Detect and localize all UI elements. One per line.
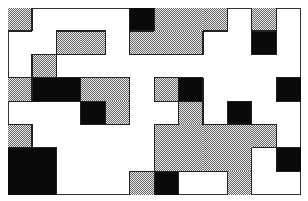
tile-border xyxy=(56,148,57,172)
tile-border xyxy=(130,30,155,31)
tile-border xyxy=(154,171,155,195)
tile-border xyxy=(154,54,179,55)
tile-border xyxy=(129,78,130,102)
tile-border xyxy=(154,124,155,148)
gray-tile xyxy=(56,31,81,55)
gray-tile xyxy=(105,101,130,125)
tile-border xyxy=(251,8,252,32)
black-tile xyxy=(130,8,155,32)
gray-tile xyxy=(154,124,179,148)
tile-border xyxy=(227,124,252,125)
tile-border xyxy=(8,101,33,102)
tile-border xyxy=(105,101,106,125)
gray-tile xyxy=(154,8,179,32)
tile-border xyxy=(81,124,106,125)
tile-border xyxy=(81,54,106,55)
gray-tile xyxy=(8,124,33,148)
tile-border xyxy=(154,148,155,172)
tile-border xyxy=(105,31,106,55)
gray-tile xyxy=(154,31,179,55)
tile-border xyxy=(32,101,57,102)
tile-border xyxy=(203,124,228,125)
tile-border xyxy=(8,30,33,31)
tile-border xyxy=(56,101,81,102)
gray-tile xyxy=(203,124,228,148)
gray-tile xyxy=(178,148,203,172)
tile-border xyxy=(276,77,301,78)
gray-tile xyxy=(8,78,33,102)
tile-border xyxy=(154,77,179,78)
gray-tile xyxy=(227,124,252,148)
black-tile xyxy=(32,148,57,172)
tile-border xyxy=(202,31,203,55)
gray-tile xyxy=(252,124,277,148)
gray-tile xyxy=(252,8,277,32)
tile-border xyxy=(31,54,32,78)
tile-border xyxy=(276,171,301,172)
tile-border xyxy=(178,171,203,172)
tile-border xyxy=(129,31,130,55)
tile-border xyxy=(178,54,203,55)
tile-border xyxy=(129,8,130,32)
gray-tile xyxy=(203,148,228,172)
tile-border xyxy=(80,101,81,125)
tile-border xyxy=(227,101,252,102)
gray-tile xyxy=(178,31,203,55)
tile-border xyxy=(276,124,277,148)
gray-tile xyxy=(130,171,155,195)
tile-border xyxy=(8,147,33,148)
tile-border xyxy=(56,171,57,195)
black-tile xyxy=(32,78,57,102)
black-tile xyxy=(276,78,301,102)
tile-border xyxy=(252,147,277,148)
tile-border xyxy=(80,78,81,102)
tile-border xyxy=(129,101,130,125)
tile-border xyxy=(154,101,179,102)
tile-border xyxy=(178,101,203,102)
black-tile xyxy=(8,171,33,195)
gray-tile xyxy=(105,78,130,102)
black-tile xyxy=(8,148,33,172)
gray-tile xyxy=(178,124,203,148)
tile-border xyxy=(203,171,228,172)
tile-border xyxy=(203,30,228,31)
tile-border xyxy=(81,77,106,78)
tile-border xyxy=(227,171,228,195)
tile-border xyxy=(178,78,179,102)
tile-border xyxy=(130,54,155,55)
tile-border xyxy=(56,54,57,78)
gray-tile xyxy=(81,78,106,102)
tile-border xyxy=(56,30,81,31)
gray-tile xyxy=(32,54,57,78)
black-tile xyxy=(81,101,106,125)
tile-border xyxy=(202,78,203,102)
tile-border xyxy=(202,101,203,125)
black-tile xyxy=(276,148,301,172)
tile-border xyxy=(154,78,155,102)
tile-border xyxy=(252,30,277,31)
gray-tile xyxy=(130,31,155,55)
tile-border xyxy=(31,8,32,32)
tile-border xyxy=(154,8,155,32)
black-tile xyxy=(252,31,277,55)
tile-border xyxy=(31,78,32,102)
tile-border xyxy=(276,78,277,102)
tile-border xyxy=(227,8,228,32)
tile-border xyxy=(56,31,57,55)
gray-tile xyxy=(81,31,106,55)
tile-border xyxy=(129,171,130,195)
tile-border xyxy=(276,147,301,148)
gray-tile xyxy=(8,8,33,32)
black-tile xyxy=(227,101,252,125)
tile-border xyxy=(8,77,33,78)
tile-border xyxy=(251,148,252,172)
tile-border xyxy=(31,124,32,148)
tile-border xyxy=(252,54,277,55)
gray-tile xyxy=(178,8,203,32)
gray-tile xyxy=(154,148,179,172)
gray-tile xyxy=(178,101,203,125)
tile-border xyxy=(105,124,130,125)
tile-grid-frame xyxy=(8,8,301,195)
tile-border xyxy=(276,8,277,32)
tile-border xyxy=(154,124,179,125)
